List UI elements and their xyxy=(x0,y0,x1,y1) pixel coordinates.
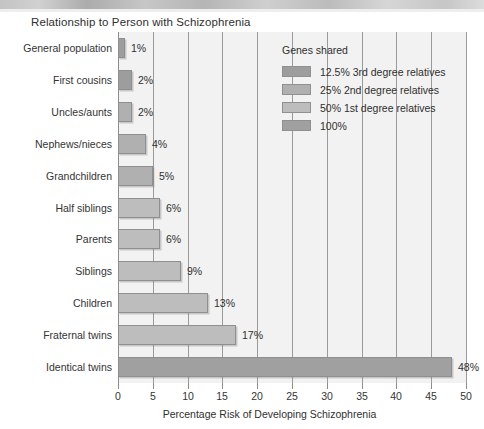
x-axis-tick-label: 45 xyxy=(425,390,437,402)
x-axis-tick xyxy=(396,383,397,389)
x-axis-tick xyxy=(362,383,363,389)
bar xyxy=(118,325,236,345)
bar-value-label: 6% xyxy=(166,233,181,245)
legend-title: Genes shared xyxy=(282,44,446,56)
bar-value-label: 1% xyxy=(131,42,146,54)
bar-value-label: 48% xyxy=(458,361,479,373)
bar xyxy=(118,102,132,122)
x-axis-tick xyxy=(257,383,258,389)
x-axis-tick xyxy=(292,383,293,389)
bar-value-label: 4% xyxy=(152,138,167,150)
legend-swatch xyxy=(282,102,311,113)
legend-label: 50% 1st degree relatives xyxy=(320,102,436,114)
x-axis-tick xyxy=(188,383,189,389)
legend-swatch xyxy=(282,84,311,95)
x-axis-tick-label: 20 xyxy=(251,390,263,402)
bar xyxy=(118,261,181,281)
y-axis-label: Grandchildren xyxy=(0,170,112,182)
y-axis-label: First cousins xyxy=(0,74,112,86)
x-axis-tick xyxy=(222,383,223,389)
y-axis-label: Parents xyxy=(0,233,112,245)
bar-value-label: 6% xyxy=(166,202,181,214)
legend-item: 25% 2nd degree relatives xyxy=(282,81,446,98)
bar xyxy=(118,293,208,313)
x-axis-title: Percentage Risk of Developing Schizophre… xyxy=(0,408,484,420)
y-axis-label: Nephews/nieces xyxy=(0,138,112,150)
x-axis-tick-label: 40 xyxy=(390,390,402,402)
y-axis-label: Siblings xyxy=(0,265,112,277)
bar-value-label: 2% xyxy=(138,106,153,118)
y-axis-label: Identical twins xyxy=(0,361,112,373)
x-axis-tick-label: 0 xyxy=(115,390,121,402)
bar-value-label: 2% xyxy=(138,74,153,86)
page-title: Relationship to Person with Schizophreni… xyxy=(31,16,251,28)
y-axis-label: Children xyxy=(0,297,112,309)
x-axis-tick xyxy=(466,383,467,389)
legend-label: 100% xyxy=(320,120,347,132)
bar xyxy=(118,229,160,249)
bar xyxy=(118,70,132,90)
legend-item: 100% xyxy=(282,117,446,134)
legend-swatch xyxy=(282,66,311,77)
bar xyxy=(118,166,153,186)
scan-artifact-band xyxy=(0,0,484,9)
legend-label: 25% 2nd degree relatives xyxy=(320,84,439,96)
x-axis-tick-label: 15 xyxy=(216,390,228,402)
legend-label: 12.5% 3rd degree relatives xyxy=(320,66,446,78)
bar-value-label: 9% xyxy=(187,265,202,277)
bar-value-label: 5% xyxy=(159,170,174,182)
x-axis-tick xyxy=(327,383,328,389)
x-axis-tick xyxy=(153,383,154,389)
gridline xyxy=(466,32,467,383)
bar xyxy=(118,198,160,218)
x-axis-tick-label: 35 xyxy=(356,390,368,402)
x-axis-tick-label: 25 xyxy=(286,390,298,402)
bar xyxy=(118,134,146,154)
y-axis-label: Uncles/aunts xyxy=(0,106,112,118)
x-axis-tick xyxy=(431,383,432,389)
legend-item: 50% 1st degree relatives xyxy=(282,99,446,116)
scan-artifact-band-light xyxy=(0,9,484,12)
y-axis-label: General population xyxy=(0,42,112,54)
legend-item: 12.5% 3rd degree relatives xyxy=(282,63,446,80)
x-axis-tick-label: 10 xyxy=(182,390,194,402)
legend-entries: 12.5% 3rd degree relatives25% 2nd degree… xyxy=(282,63,446,134)
y-axis-label: Fraternal twins xyxy=(0,329,112,341)
legend-swatch xyxy=(282,120,311,131)
x-axis-tick xyxy=(118,383,119,389)
bar-value-label: 13% xyxy=(214,297,235,309)
x-axis-tick-label: 30 xyxy=(321,390,333,402)
bar xyxy=(118,38,125,58)
bar xyxy=(118,357,452,377)
x-axis-tick-label: 5 xyxy=(150,390,156,402)
legend: Genes shared 12.5% 3rd degree relatives2… xyxy=(282,44,446,135)
x-axis-tick-label: 50 xyxy=(460,390,472,402)
y-axis-label: Half siblings xyxy=(0,202,112,214)
bar-value-label: 17% xyxy=(242,329,263,341)
